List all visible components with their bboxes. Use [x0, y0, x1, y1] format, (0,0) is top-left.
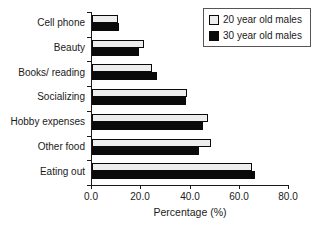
- legend-item-20-year-old-males: 20 year old males: [209, 12, 310, 27]
- x-axis-title: Percentage (%): [91, 206, 289, 218]
- x-axis-tick: [140, 185, 141, 189]
- bar-20yo-socializing: [92, 89, 187, 97]
- bar-30yo-cell-phone: [92, 23, 119, 31]
- bar-20yo-beauty: [92, 40, 144, 48]
- legend-item-30-year-old-males: 30 year old males: [209, 28, 310, 43]
- bar-chart-figure: Cell phoneBeautyBooks/ readingSocializin…: [0, 0, 314, 228]
- category-label-hobby-expenses: Hobby expenses: [0, 111, 85, 133]
- legend: 20 year old males 30 year old males: [203, 8, 311, 47]
- x-axis-tick-label: 0.0: [77, 191, 105, 202]
- bar-20yo-cell-phone: [92, 15, 118, 23]
- x-axis-tick: [91, 185, 92, 189]
- category-label-socializing: Socializing: [0, 86, 85, 108]
- bar-20yo-eating-out: [92, 163, 252, 171]
- y-axis-tick: [87, 61, 91, 62]
- x-axis-tick-label: 60.0: [225, 191, 253, 202]
- bar-20yo-books-reading: [92, 64, 152, 72]
- bar-30yo-eating-out: [92, 171, 255, 179]
- bar-30yo-socializing: [92, 97, 186, 105]
- y-axis-tick: [87, 136, 91, 137]
- x-axis-tick: [190, 185, 191, 189]
- y-axis-tick: [87, 111, 91, 112]
- x-axis-tick: [239, 185, 240, 189]
- category-label-books-reading: Books/ reading: [0, 61, 85, 83]
- y-axis-tick: [87, 37, 91, 38]
- y-axis-tick: [87, 12, 91, 13]
- legend-label-20-year-old-males: 20 year old males: [223, 14, 302, 25]
- bar-30yo-beauty: [92, 48, 139, 56]
- bar-20yo-other-food: [92, 139, 211, 147]
- legend-swatch-light-icon: [209, 15, 219, 25]
- legend-swatch-dark-icon: [209, 31, 219, 41]
- x-axis-tick-label: 40.0: [176, 191, 204, 202]
- category-label-beauty: Beauty: [0, 37, 85, 59]
- x-axis-tick: [288, 185, 289, 189]
- bar-30yo-other-food: [92, 147, 199, 155]
- category-label-other-food: Other food: [0, 136, 85, 158]
- bar-20yo-hobby-expenses: [92, 114, 208, 122]
- bar-30yo-books-reading: [92, 72, 157, 80]
- x-axis-tick-label: 20.0: [126, 191, 154, 202]
- legend-label-30-year-old-males: 30 year old males: [223, 30, 302, 41]
- category-label-eating-out: Eating out: [0, 160, 85, 182]
- y-axis-tick: [87, 86, 91, 87]
- x-axis-tick-label: 80.0: [274, 191, 302, 202]
- category-label-cell-phone: Cell phone: [0, 12, 85, 34]
- y-axis-tick: [87, 160, 91, 161]
- bar-30yo-hobby-expenses: [92, 122, 203, 130]
